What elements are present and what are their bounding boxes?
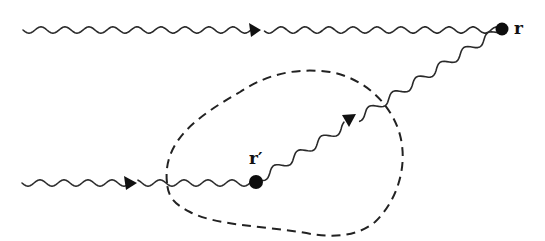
diagram-canvas [0, 0, 545, 241]
scattering-region-loop [167, 71, 403, 236]
scattered-wave [258, 32, 499, 181]
arrow-head-bottom [124, 176, 137, 190]
point-r [496, 23, 509, 36]
arrow-head-scattered [342, 114, 356, 127]
point-r-prime [249, 175, 263, 189]
arrow-head-top [249, 23, 261, 37]
label-r-prime: r′ [249, 150, 262, 167]
label-r: r [514, 20, 523, 37]
